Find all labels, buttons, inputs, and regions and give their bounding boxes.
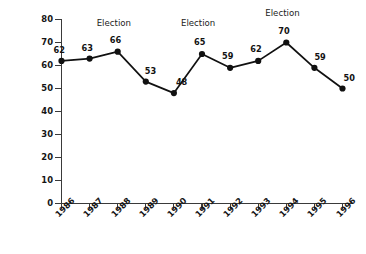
election-annotation: Election (181, 18, 215, 28)
election-annotation: Election (97, 18, 131, 28)
series-markers (58, 39, 345, 96)
data-point-label: 48 (176, 77, 187, 87)
data-point-marker (199, 51, 205, 57)
data-point-label: 59 (222, 51, 233, 61)
data-point-marker (227, 65, 233, 71)
data-point-marker (283, 39, 289, 45)
data-point-marker (143, 79, 149, 85)
chart-figure: Percentage 'very' or 'somewhat' convince… (0, 0, 366, 254)
data-point-marker (339, 85, 345, 91)
data-point-label: 66 (110, 35, 121, 45)
data-point-label: 70 (278, 26, 289, 36)
data-point-label: 53 (145, 66, 156, 76)
data-point-marker (255, 58, 261, 64)
data-point-label: 63 (82, 43, 93, 53)
data-point-marker (311, 65, 317, 71)
series-line (62, 43, 343, 94)
data-point-label: 65 (194, 37, 205, 47)
data-point-label: 62 (250, 44, 261, 54)
data-point-label: 50 (344, 73, 355, 83)
data-point-label: 62 (54, 45, 65, 55)
election-annotation: Election (265, 8, 299, 18)
data-point-marker (58, 58, 64, 64)
series-plot (0, 0, 366, 254)
data-point-marker (171, 90, 177, 96)
data-point-marker (87, 56, 93, 62)
data-point-marker (115, 49, 121, 55)
data-point-label: 59 (314, 52, 325, 62)
